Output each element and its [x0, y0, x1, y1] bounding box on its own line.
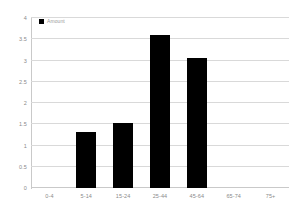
y-axis-tick-labels: 00.511.522.533.54 [0, 18, 27, 188]
x-axis-tick-label: 5-14 [68, 193, 105, 199]
y-axis-tick-label: 3 [24, 58, 27, 64]
bar-slot [142, 18, 179, 188]
x-axis-tick-label: 0-4 [31, 193, 68, 199]
bar-chart: 00.511.522.533.54 0-45-1415-2425-4445-64… [0, 0, 297, 218]
x-axis-tick-label: 45-64 [178, 193, 215, 199]
x-axis-tick-label: 75+ [252, 193, 289, 199]
bar [113, 123, 133, 188]
x-axis-tick-label: 25-44 [142, 193, 179, 199]
y-axis-tick-label: 3.5 [19, 36, 27, 42]
bar-slot [31, 18, 68, 188]
legend-swatch-icon [39, 19, 44, 24]
bar-slot [105, 18, 142, 188]
bar-slot [215, 18, 252, 188]
chart-legend: Amount [39, 18, 65, 24]
bar-slot [68, 18, 105, 188]
bar [187, 58, 207, 188]
y-axis-tick-label: 0.5 [19, 164, 27, 170]
bars-layer [31, 18, 289, 188]
legend-label: Amount [47, 18, 65, 24]
x-axis-tick-label: 65-74 [215, 193, 252, 199]
x-axis-tick-label: 15-24 [105, 193, 142, 199]
bar-slot [252, 18, 289, 188]
bar [76, 132, 96, 188]
y-axis-tick-label: 2.5 [19, 79, 27, 85]
y-axis-tick-label: 0 [24, 185, 27, 191]
y-axis-tick-label: 1.5 [19, 121, 27, 127]
y-axis-tick-label: 2 [24, 100, 27, 106]
bar-slot [178, 18, 215, 188]
bar [150, 35, 170, 188]
x-axis-tick-labels: 0-45-1415-2425-4445-6465-7475+ [31, 193, 289, 207]
y-axis-tick-label: 4 [24, 15, 27, 21]
y-axis-tick-label: 1 [24, 143, 27, 149]
